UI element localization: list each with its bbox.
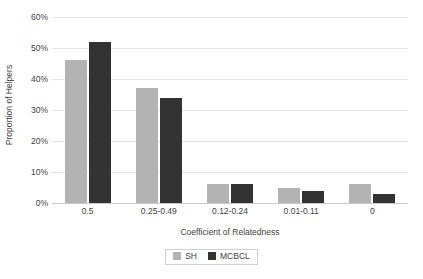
- y-axis-tick-label: 20%: [2, 137, 48, 146]
- bar-sh-4[interactable]: [349, 184, 371, 203]
- y-axis-tick-label: 60%: [2, 13, 48, 22]
- x-axis-title: Coefficient of Relatedness: [52, 227, 408, 237]
- bar-group: [123, 17, 194, 203]
- bar-group: [266, 17, 337, 203]
- x-axis-line: [52, 203, 408, 204]
- legend-item-mcbcl[interactable]: MCBCL: [208, 252, 250, 261]
- x-axis-tick-label: 0: [337, 206, 408, 216]
- x-axis-tick-label: 0.12-0.24: [194, 206, 265, 216]
- y-axis-ticks: 0%10%20%30%40%50%60%: [0, 17, 48, 203]
- bar-mcbcl-2[interactable]: [231, 184, 253, 203]
- y-axis-tick-label: 30%: [2, 106, 48, 115]
- bar-sh-1[interactable]: [136, 88, 158, 203]
- x-axis-tick-label: 0.25-0.49: [123, 206, 194, 216]
- bar-sh-3[interactable]: [278, 188, 300, 204]
- bar-mcbcl-3[interactable]: [302, 191, 324, 203]
- y-axis-tick-label: 0%: [2, 199, 48, 208]
- bars-layer: [52, 17, 408, 203]
- x-axis-tick-label: 0.5: [52, 206, 123, 216]
- bar-mcbcl-0[interactable]: [89, 42, 111, 203]
- x-axis-ticks: 0.50.25-0.490.12-0.240.01-0.110: [52, 206, 408, 216]
- x-axis-title-label: Coefficient of Relatedness: [180, 227, 279, 237]
- y-axis-tick-label: 50%: [2, 44, 48, 53]
- x-axis-tick-label: 0.01-0.11: [266, 206, 337, 216]
- bar-sh-0[interactable]: [65, 60, 87, 203]
- bar-chart: Proportion of Helpers 0%10%20%30%40%50%6…: [0, 0, 423, 279]
- bar-mcbcl-1[interactable]: [160, 98, 182, 203]
- y-axis-tick-label: 10%: [2, 168, 48, 177]
- bar-group: [194, 17, 265, 203]
- legend: SHMCBCL: [0, 249, 423, 265]
- legend-label: SH: [185, 252, 197, 261]
- bar-group: [337, 17, 408, 203]
- legend-swatch-icon: [173, 252, 181, 260]
- legend-label: MCBCL: [220, 252, 250, 261]
- bar-mcbcl-4[interactable]: [373, 194, 395, 203]
- legend-box: SHMCBCL: [165, 249, 258, 265]
- legend-swatch-icon: [208, 252, 216, 260]
- bar-group: [52, 17, 123, 203]
- legend-item-sh[interactable]: SH: [173, 252, 197, 261]
- y-axis-tick-label: 40%: [2, 75, 48, 84]
- bar-sh-2[interactable]: [207, 184, 229, 203]
